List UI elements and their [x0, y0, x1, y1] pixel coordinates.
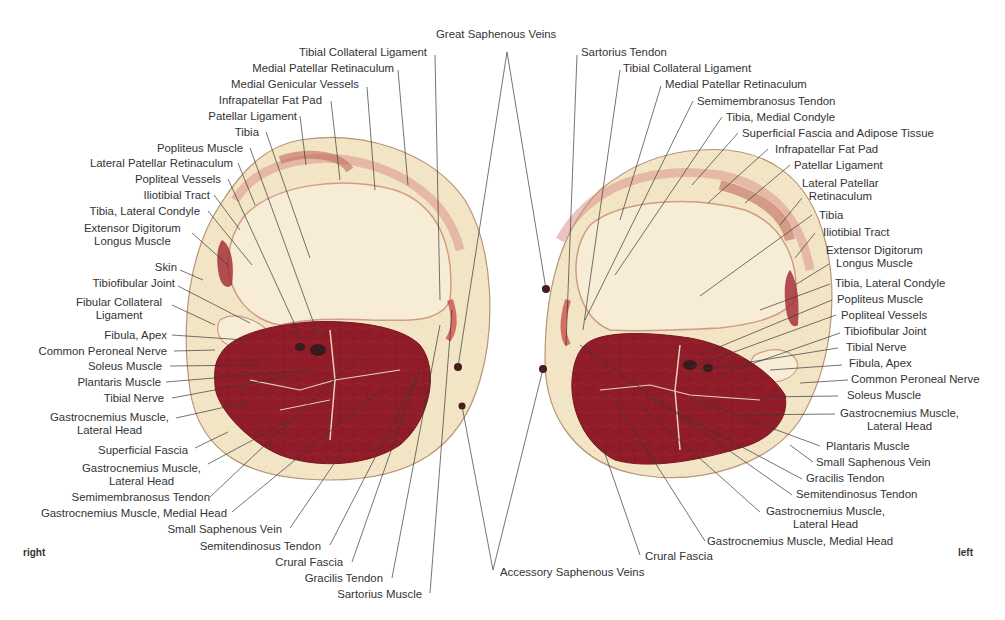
lk-label-12: Tibia, Lateral Condyle — [835, 277, 945, 290]
lk-label-25: Gastrocnemius Muscle, Lateral Head — [766, 505, 885, 531]
rk-label-9: Iliotibial Tract — [144, 189, 210, 202]
lk-label-27: Crural Fascia — [645, 550, 713, 563]
lk-label-10: Iliotibial Tract — [823, 226, 889, 239]
lk-label-13: Popliteus Muscle — [837, 293, 923, 306]
side-label-right: right — [23, 547, 45, 558]
rk-label-1: Medial Patellar Retinaculum — [252, 62, 394, 75]
lk-label-24: Semitendinosus Tendon — [796, 488, 917, 501]
lk-label-9: Tibia — [819, 209, 843, 222]
rk-label-14: Fibular Collateral Ligament — [76, 296, 162, 322]
lk-label-17: Fibula, Apex — [849, 357, 912, 370]
knee-cross-section-figure: Great Saphenous Veins Accessory Saphenou… — [0, 0, 1005, 620]
lk-label-19: Soleus Muscle — [847, 389, 921, 402]
right-tibia — [228, 183, 451, 325]
rk-label-28: Gracilis Tendon — [305, 572, 383, 585]
side-label-left: left — [958, 547, 973, 558]
lk-label-20: Gastrocnemius Muscle, Lateral Head — [840, 407, 959, 433]
label-great-saphenous-veins: Great Saphenous Veins — [436, 28, 556, 41]
rk-label-5: Tibia — [235, 126, 259, 139]
rk-label-29: Sartorius Muscle — [337, 588, 422, 601]
rk-label-7: Lateral Patellar Retinaculum — [90, 157, 233, 170]
rk-label-20: Gastrocnemius Muscle, Lateral Head — [50, 411, 169, 437]
lk-label-2: Medial Patellar Retinaculum — [665, 78, 807, 91]
lk-label-26: Gastrocnemius Muscle, Medial Head — [707, 535, 893, 548]
rk-label-21: Superficial Fascia — [98, 444, 188, 457]
lk-label-14: Popliteal Vessels — [841, 309, 927, 322]
lk-label-4: Tibia, Medial Condyle — [726, 111, 835, 124]
rk-label-12: Skin — [155, 261, 177, 274]
lk-label-23: Gracilis Tendon — [806, 472, 884, 485]
lk-label-0: Sartorius Tendon — [581, 46, 667, 59]
label-accessory-saphenous-veins: Accessory Saphenous Veins — [500, 566, 644, 579]
rk-label-27: Crural Fascia — [275, 556, 343, 569]
rk-label-4: Patellar Ligament — [208, 110, 297, 123]
rk-label-17: Soleus Muscle — [88, 360, 162, 373]
rk-label-19: Tibial Nerve — [104, 392, 164, 405]
left-knee-section — [539, 150, 832, 478]
rk-label-22: Gastrocnemius Muscle, Lateral Head — [82, 462, 201, 488]
rk-label-10: Tibia, Lateral Condyle — [90, 205, 200, 218]
rk-label-0: Tibial Collateral Ligament — [299, 46, 427, 59]
lk-label-18: Common Peroneal Nerve — [851, 373, 980, 386]
lk-label-21: Plantaris Muscle — [826, 440, 910, 453]
rk-label-25: Small Saphenous Vein — [167, 523, 282, 536]
lk-label-7: Patellar Ligament — [794, 159, 883, 172]
right-knee-section — [186, 138, 490, 481]
lk-label-5: Superficial Fascia and Adipose Tissue — [742, 127, 934, 140]
lk-label-16: Tibial Nerve — [846, 341, 906, 354]
lk-label-15: Tibiofibular Joint — [844, 325, 927, 338]
lk-label-11: Extensor Digitorum Longus Muscle — [826, 244, 923, 270]
rk-label-8: Popliteal Vessels — [135, 173, 221, 186]
lk-label-3: Semimembranosus Tendon — [697, 95, 835, 108]
rk-label-3: Infrapatellar Fat Pad — [219, 94, 322, 107]
rk-label-18: Plantaris Muscle — [77, 376, 161, 389]
lk-label-6: Infrapatellar Fat Pad — [775, 143, 878, 156]
lk-label-22: Small Saphenous Vein — [816, 456, 931, 469]
rk-label-26: Semitendinosus Tendon — [200, 540, 321, 553]
lk-label-1: Tibial Collateral Ligament — [623, 62, 751, 75]
rk-label-24: Gastrocnemius Muscle, Medial Head — [41, 507, 227, 520]
rk-label-2: Medial Genicular Vessels — [231, 78, 359, 91]
rk-label-13: Tibiofibular Joint — [92, 277, 175, 290]
rk-label-11: Extensor Digitorum Longus Muscle — [84, 222, 181, 248]
rk-label-15: Fibula, Apex — [104, 329, 167, 342]
rk-label-16: Common Peroneal Nerve — [38, 345, 167, 358]
rk-label-23: Semimembranosus Tendon — [72, 491, 210, 504]
left-tibia — [576, 202, 796, 331]
lk-label-8: Lateral Patellar Retinaculum — [802, 177, 879, 203]
rk-label-6: Popliteus Muscle — [157, 142, 243, 155]
